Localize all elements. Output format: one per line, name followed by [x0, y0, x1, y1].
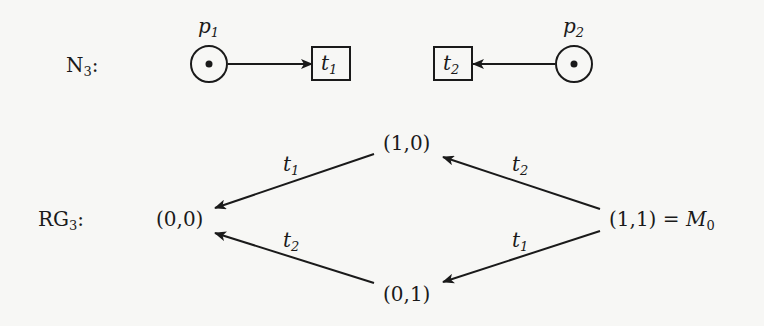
transition-t1-label: t1 [321, 51, 337, 77]
node-m11: (1,1) = M0 [609, 207, 715, 233]
transition-t1: t1 [312, 47, 350, 80]
edge-m11-m01-label: t1 [512, 228, 528, 254]
edge-m01-m00-label: t2 [283, 228, 299, 254]
place-p2: p2 [556, 14, 592, 82]
rg-label: RG3: [38, 207, 84, 233]
place-p2-label: p2 [563, 14, 584, 40]
place-p1: p1 [191, 14, 227, 82]
edge-m10-m00-label: t1 [283, 152, 299, 178]
node-m00: (0,0) [156, 207, 203, 231]
place-p1-label: p1 [198, 14, 219, 40]
transition-t2-label: t2 [443, 51, 459, 77]
token-p2 [571, 61, 578, 68]
petri-net-figure: N3: p1 t1 t2 p2 RG3: (0,0) (1,0) (0,1) (… [0, 0, 764, 326]
node-m10: (1,0) [383, 131, 430, 155]
edge-m11-m10-label: t2 [512, 152, 528, 178]
net-label: N3: [66, 53, 99, 79]
node-m01: (0,1) [383, 282, 430, 306]
token-p1 [206, 61, 213, 68]
transition-t2: t2 [434, 47, 472, 80]
